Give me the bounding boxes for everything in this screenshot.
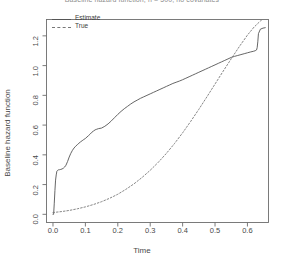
x-tick-label: 0.5 — [203, 226, 227, 235]
legend-line-dashed-icon — [52, 27, 71, 29]
y-tick-label: 0.0 — [31, 214, 41, 236]
chart-legend: Estimate True — [52, 15, 126, 34]
legend-line-solid-icon — [52, 19, 71, 21]
plot-box — [47, 20, 269, 223]
y-tick-label: 1.2 — [31, 36, 41, 58]
x-tick-label: 0.4 — [171, 226, 195, 235]
y-tick-label: 1.0 — [31, 66, 41, 88]
x-tick-label: 0.3 — [138, 226, 162, 235]
x-axis-label: Time — [0, 246, 284, 255]
y-tick-label: 0.6 — [31, 125, 41, 147]
chart-title: Baseline hazard function, n = 500, no co… — [0, 0, 284, 3]
legend-item-true: True — [52, 23, 126, 32]
y-tick-label: 0.2 — [31, 185, 41, 207]
x-tick-label: 0.1 — [73, 226, 97, 235]
x-tick-label: 0.2 — [106, 226, 130, 235]
legend-label-estimate: Estimate — [75, 14, 100, 21]
series-line-true — [53, 17, 265, 212]
y-axis-label: Baseline hazard function — [2, 0, 14, 266]
chart-figure: Baseline hazard function, n = 500, no co… — [0, 0, 284, 266]
legend-label-true: True — [75, 22, 88, 29]
x-tick-label: 0.0 — [41, 226, 65, 235]
x-tick-label: 0.6 — [235, 226, 259, 235]
y-tick-label: 0.8 — [31, 95, 41, 117]
y-tick-label: 0.4 — [31, 155, 41, 177]
